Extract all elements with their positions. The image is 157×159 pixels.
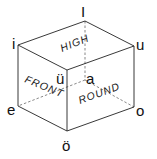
- vertex-label-i: i: [12, 35, 15, 52]
- vowel-cube-diagram: HIGH FRONT ROUND i I u ü a e ö o: [0, 0, 157, 159]
- edge-bottom-left: [18, 106, 67, 131]
- edge-bottom-right: [67, 107, 134, 131]
- face-label-high: HIGH: [58, 31, 91, 53]
- vertex-label-u: u: [136, 36, 144, 53]
- vertex-label-u-umlaut: ü: [56, 70, 64, 87]
- vertex-label-I: I: [81, 3, 85, 20]
- vertex-label-o: o: [136, 102, 144, 119]
- face-label-round: ROUND: [77, 80, 122, 106]
- vertex-label-o-umlaut: ö: [62, 137, 70, 154]
- vertex-label-a: a: [86, 70, 95, 87]
- vertex-label-e: e: [7, 101, 15, 118]
